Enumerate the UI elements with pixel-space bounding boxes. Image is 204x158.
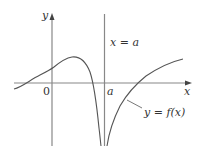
curve-right-branch <box>107 59 183 146</box>
a-tick-label: a <box>107 85 114 98</box>
y-axis-arrow-icon <box>50 13 55 20</box>
function-graph: y x 0 a x = a y = f(x) <box>0 0 204 158</box>
asymptote-label: x = a <box>110 36 139 49</box>
curve-left-branch <box>14 57 101 146</box>
y-axis-label: y <box>41 9 49 22</box>
label-pointer-line <box>127 100 142 108</box>
curve-label: y = f(x) <box>143 106 185 119</box>
origin-label: 0 <box>43 85 50 98</box>
x-axis-label: x <box>184 85 191 98</box>
